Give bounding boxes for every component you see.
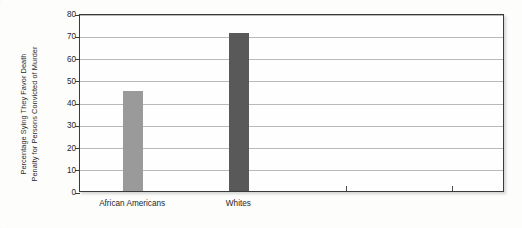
x-axis-tick-mark [452,186,453,191]
plot-area [79,14,504,192]
y-axis-tick-mark [75,15,80,16]
y-axis-title-line-1: Percentage Sying They Favor Death [19,46,30,181]
x-axis-tick-mark [346,186,347,191]
y-axis-title: Percentage Sying They Favor Death Penalt… [19,46,40,181]
x-axis-label-whites: Whites [226,199,251,208]
y-axis-tick-mark [75,104,80,105]
y-axis-tick-mark [75,81,80,82]
y-axis-tick-labels: 01020304050607080 [56,14,76,192]
y-axis-tick-mark [75,148,80,149]
gridline [80,81,503,82]
gridline [80,148,503,149]
chart-screenshot: Percentage Sying They Favor Death Penalt… [0,0,522,228]
y-axis-tick-mark [75,193,80,194]
x-axis-category-labels: African AmericansWhites [79,196,504,216]
bar-african-americans [123,91,143,191]
y-axis-tick-mark [75,126,80,127]
gridline [80,37,503,38]
gridline [80,104,503,105]
y-axis-title-container: Percentage Sying They Favor Death Penalt… [0,0,58,228]
gridline [80,59,503,60]
gridline [80,126,503,127]
y-axis-tick-mark [75,37,80,38]
bar-whites [229,33,249,191]
gridline [80,170,503,171]
y-axis-title-line-2: Penalty for Persons Convicted of Murder [29,46,40,181]
gridline [80,15,503,16]
y-axis-tick-mark [75,170,80,171]
y-axis-tick-mark [75,59,80,60]
x-axis-label-african-americans: African Americans [99,199,165,208]
